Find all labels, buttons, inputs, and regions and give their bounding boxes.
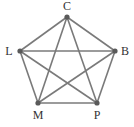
node-c xyxy=(64,14,69,19)
node-b xyxy=(112,48,117,53)
node-label-p: P xyxy=(94,108,101,122)
node-p xyxy=(94,100,99,105)
edge-c-b xyxy=(67,17,115,51)
edge-c-p xyxy=(67,17,97,103)
edge-l-p xyxy=(20,51,97,103)
edge-c-m xyxy=(38,17,67,103)
node-label-l: L xyxy=(5,44,12,58)
edge-c-l xyxy=(20,17,67,51)
node-l xyxy=(17,48,22,53)
node-label-c: C xyxy=(63,0,71,13)
node-label-b: B xyxy=(121,44,129,58)
node-label-m: M xyxy=(33,108,44,122)
edges-group xyxy=(20,17,115,103)
edge-b-p xyxy=(97,51,115,103)
node-m xyxy=(35,100,40,105)
graph-diagram: C L B M P xyxy=(0,0,134,127)
edge-l-m xyxy=(20,51,38,103)
edge-b-m xyxy=(38,51,115,103)
